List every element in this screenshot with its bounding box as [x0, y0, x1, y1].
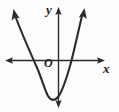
origin-label: O: [44, 57, 53, 69]
coordinate-plane-svg: [0, 0, 119, 112]
x-axis-label: x: [103, 62, 110, 75]
curve-arrow-up-right-icon: [79, 8, 87, 19]
y-axis-label: y: [46, 3, 52, 16]
parabola-figure: y x O: [0, 0, 119, 112]
